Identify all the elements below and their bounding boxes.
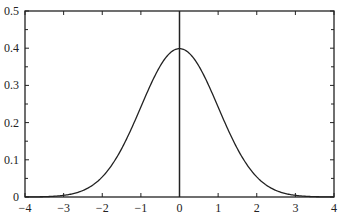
x-tick-label: 3: [292, 201, 298, 215]
x-tick-label: 1: [215, 201, 221, 215]
y-tick-label: 0.4: [4, 41, 19, 55]
x-tick-label: 2: [254, 201, 260, 215]
x-tick-label: −3: [57, 201, 70, 215]
x-tick-label: −4: [19, 201, 32, 215]
x-tick-label: −1: [134, 201, 147, 215]
x-tick-label: −2: [96, 201, 109, 215]
y-tick-label: 0: [13, 190, 19, 204]
y-tick-label: 0.1: [4, 153, 19, 167]
y-axis-tick-labels: 00.10.20.30.40.5: [4, 4, 19, 204]
y-tick-label: 0.5: [4, 4, 19, 18]
x-axis-tick-labels: −4−3−2−101234: [19, 201, 337, 215]
x-tick-label: 4: [331, 201, 337, 215]
x-tick-label: 0: [177, 201, 183, 215]
y-tick-label: 0.3: [4, 78, 19, 92]
y-tick-label: 0.2: [4, 116, 19, 130]
normal-distribution-chart: −4−3−2−101234 00.10.20.30.40.5: [0, 0, 343, 216]
